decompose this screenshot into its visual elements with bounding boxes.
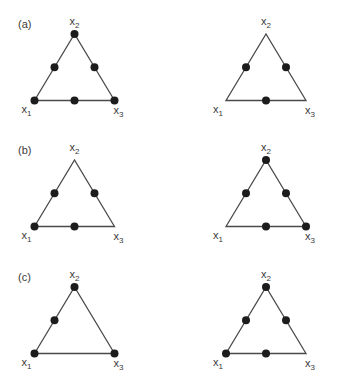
design-triangle-right: x2x1x3 [213, 15, 316, 119]
design-point-x2x3 [282, 189, 290, 197]
design-triangle-left: x2x1x3 [22, 268, 125, 372]
design-point-x1x3 [71, 223, 79, 231]
panel-label: (c) [18, 271, 31, 283]
vertex-label-x2: x2 [70, 15, 81, 30]
design-point-x1x2 [51, 63, 59, 71]
design-point-x2x3 [282, 63, 290, 71]
design-point-x1x3 [262, 223, 270, 231]
design-point-x1 [31, 97, 39, 105]
vertex-label-x1: x1 [213, 356, 224, 371]
vertex-label-x3: x3 [114, 104, 125, 119]
design-point-x1x2 [51, 189, 59, 197]
vertex-label-x2: x2 [70, 268, 81, 283]
design-point-x1x2 [242, 316, 250, 324]
simplex-triangle [226, 287, 306, 354]
simplex-triangle [35, 34, 115, 101]
design-point-x1 [31, 223, 39, 231]
vertex-label-x2: x2 [70, 141, 81, 156]
vertex-label-x3: x3 [305, 230, 316, 245]
design-point-x1x3 [71, 97, 79, 105]
vertex-label-x1: x1 [22, 356, 33, 371]
vertex-label-x1: x1 [22, 229, 33, 244]
design-triangle-left: x2x1x3 [22, 141, 125, 245]
panel-b: (b)x2x1x3x2x1x3 [18, 141, 316, 245]
vertex-label-x2: x2 [261, 141, 272, 156]
design-point-x1 [31, 350, 39, 358]
vertex-label-x3: x3 [305, 104, 316, 119]
design-point-x2x3 [282, 316, 290, 324]
design-triangle-left: x2x1x3 [22, 15, 125, 119]
vertex-label-x3: x3 [114, 230, 125, 245]
vertex-label-x1: x1 [213, 229, 224, 244]
panel-a: (a)x2x1x3x2x1x3 [18, 15, 316, 119]
design-point-x1x2 [242, 189, 250, 197]
simplex-triangle [35, 287, 115, 354]
panel-label: (a) [18, 18, 31, 30]
design-point-x1x3 [262, 97, 270, 105]
design-triangle-right: x2x1x3 [213, 141, 316, 245]
design-point-x1x2 [51, 316, 59, 324]
simplex-triangle [226, 160, 306, 227]
design-point-x2 [262, 156, 270, 164]
vertex-label-x1: x1 [213, 103, 224, 118]
design-point-x1x2 [242, 63, 250, 71]
design-point-x2 [71, 30, 79, 38]
design-point-x2 [262, 283, 270, 291]
vertex-label-x2: x2 [261, 268, 272, 283]
design-point-x2 [71, 283, 79, 291]
vertex-label-x2: x2 [261, 15, 272, 30]
simplex-design-figure: (a)x2x1x3x2x1x3(b)x2x1x3x2x1x3(c)x2x1x3x… [0, 0, 337, 382]
design-point-x2x3 [91, 189, 99, 197]
design-triangle-right: x2x1x3 [213, 268, 316, 372]
simplex-triangle [35, 160, 115, 227]
design-point-x1 [222, 350, 230, 358]
panel-c: (c)x2x1x3x2x1x3 [18, 268, 316, 372]
vertex-label-x3: x3 [114, 357, 125, 372]
simplex-triangle [226, 34, 306, 101]
vertex-label-x3: x3 [305, 357, 316, 372]
vertex-label-x1: x1 [22, 103, 33, 118]
design-point-x2x3 [91, 63, 99, 71]
design-point-x1x3 [262, 350, 270, 358]
panel-label: (b) [18, 144, 31, 156]
